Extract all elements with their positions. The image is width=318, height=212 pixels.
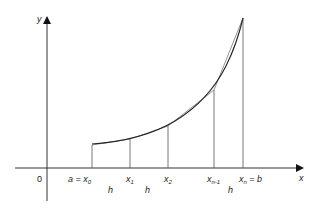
x-axis-label: x [298, 173, 304, 183]
y-axis-label: y [36, 14, 42, 24]
trapezoid-rule-diagram: y x 0 a = x0 x1 x2 xn-1 xn = b h h h [0, 0, 318, 212]
label-xn: xn = b [238, 174, 262, 185]
origin-label: 0 [37, 174, 42, 184]
label-xn-1: xn-1 [206, 174, 220, 185]
interval-h-2: h [145, 185, 150, 195]
trapezoid-chords [92, 18, 243, 145]
function-curve [92, 18, 243, 144]
interval-h-3: h [228, 185, 233, 195]
label-x1: x1 [125, 174, 134, 185]
label-x2: x2 [163, 174, 173, 185]
label-x0: a = x0 [68, 174, 92, 185]
interval-h-1: h [108, 185, 113, 195]
